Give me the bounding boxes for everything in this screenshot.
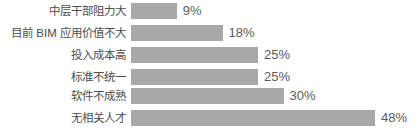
bar-track: 30% — [131, 88, 316, 104]
bar-category-label: 标准不统一 — [0, 69, 126, 85]
bar-value-label: 25% — [264, 69, 290, 85]
bar-row: 中层干部阻力大 9% — [0, 3, 419, 19]
bar-fill — [131, 47, 258, 63]
bar-value-label: 18% — [229, 25, 255, 41]
bar-track: 25% — [131, 47, 290, 63]
bar-row: 软件不成熟 30% — [0, 88, 419, 104]
bar-fill — [131, 69, 258, 85]
bar-category-label: 无相关人才 — [0, 110, 126, 126]
bar-track: 9% — [131, 3, 202, 19]
bar-value-label: 30% — [290, 88, 316, 104]
bar-fill — [131, 25, 223, 41]
bar-row: 投入成本高 25% — [0, 47, 419, 63]
bar-fill — [131, 3, 177, 19]
bar-value-label: 9% — [183, 3, 202, 19]
bar-category-label: 软件不成熟 — [0, 88, 126, 104]
bar-value-label: 25% — [264, 47, 290, 63]
bar-fill — [131, 88, 284, 104]
bar-row: 标准不统一 25% — [0, 69, 419, 85]
bar-category-label: 中层干部阻力大 — [0, 3, 126, 19]
bar-value-label: 48% — [381, 110, 407, 126]
bar-fill — [131, 110, 375, 126]
bar-track: 25% — [131, 69, 290, 85]
bar-track: 18% — [131, 25, 255, 41]
bar-track: 48% — [131, 110, 407, 126]
horizontal-bar-chart: 中层干部阻力大 9% 目前 BIM 应用价值不大 18% 投入成本高 25% 标… — [0, 0, 419, 137]
bar-row: 无相关人才 48% — [0, 110, 419, 126]
bar-row: 目前 BIM 应用价值不大 18% — [0, 25, 419, 41]
bar-category-label: 投入成本高 — [0, 47, 126, 63]
bar-category-label: 目前 BIM 应用价值不大 — [0, 25, 126, 41]
